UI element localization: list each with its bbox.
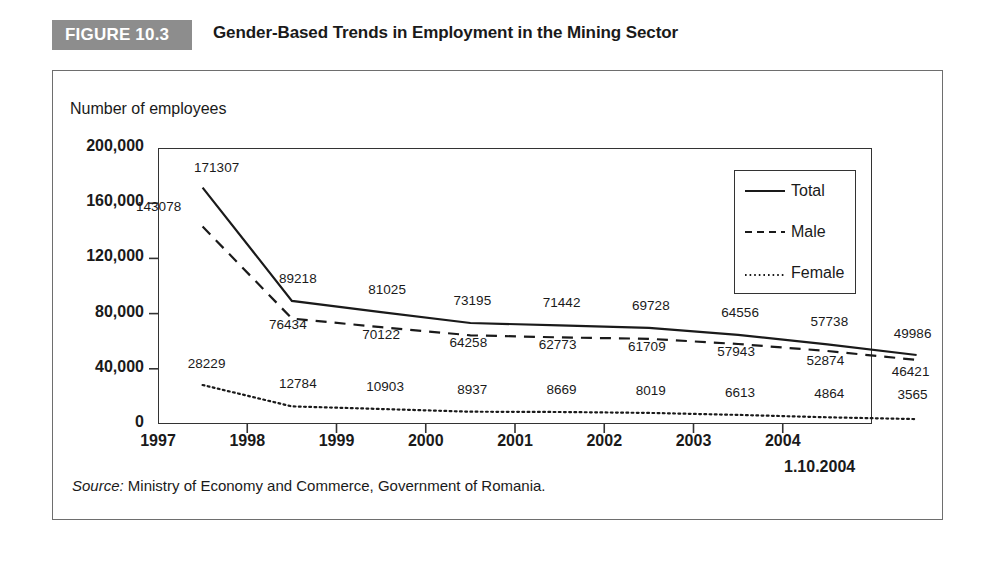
data-point-label: 28229 bbox=[177, 356, 237, 371]
x-axis-end-date-label: 1.10.2004 bbox=[784, 458, 855, 476]
legend-item-total[interactable]: Total bbox=[743, 181, 825, 201]
legend-line-dashed-icon bbox=[743, 226, 787, 238]
legend-line-dotted-icon bbox=[743, 267, 787, 279]
legend-item-male[interactable]: Male bbox=[743, 222, 826, 242]
x-axis-tick-label: 2001 bbox=[475, 432, 555, 450]
data-point-label: 8669 bbox=[532, 382, 592, 397]
data-point-label: 10903 bbox=[355, 379, 415, 394]
legend-label-male: Male bbox=[791, 223, 826, 241]
data-point-label: 8019 bbox=[621, 383, 681, 398]
data-point-label: 49986 bbox=[883, 326, 943, 341]
x-axis-tick-label: 1997 bbox=[118, 432, 198, 450]
x-axis-tick-label: 2002 bbox=[564, 432, 644, 450]
data-point-label: 8937 bbox=[442, 382, 502, 397]
figure-title: Gender-Based Trends in Employment in the… bbox=[213, 23, 678, 43]
data-point-label: 52874 bbox=[795, 353, 855, 368]
data-point-label: 69728 bbox=[621, 298, 681, 313]
legend-label-total: Total bbox=[791, 182, 825, 200]
y-axis-tick-label: 0 bbox=[34, 413, 144, 431]
y-axis-title: Number of employees bbox=[70, 100, 227, 118]
data-point-label: 171307 bbox=[187, 160, 247, 175]
data-point-label: 89218 bbox=[268, 271, 328, 286]
y-axis-tick-label: 40,000 bbox=[34, 358, 144, 376]
y-axis-tick-label: 200,000 bbox=[34, 137, 144, 155]
legend-label-female: Female bbox=[791, 264, 844, 282]
data-point-label: 64556 bbox=[710, 305, 770, 320]
data-point-label: 46421 bbox=[881, 364, 941, 379]
data-point-label: 6613 bbox=[710, 385, 770, 400]
data-point-label: 71442 bbox=[532, 295, 592, 310]
data-point-label: 73195 bbox=[442, 293, 502, 308]
data-point-label: 61709 bbox=[617, 339, 677, 354]
data-point-label: 64258 bbox=[438, 335, 498, 350]
data-point-label: 3565 bbox=[883, 387, 943, 402]
x-axis-tick-label: 2004 bbox=[743, 432, 823, 450]
y-axis-tick-label: 160,000 bbox=[34, 192, 144, 210]
data-point-label: 57738 bbox=[799, 314, 859, 329]
figure-number-badge: FIGURE 10.3 bbox=[52, 20, 192, 50]
x-axis-tick-label: 2003 bbox=[654, 432, 734, 450]
figure-container: FIGURE 10.3 Gender-Based Trends in Emplo… bbox=[0, 0, 996, 565]
source-text: Ministry of Economy and Commerce, Govern… bbox=[124, 477, 546, 494]
y-axis-tick-label: 120,000 bbox=[34, 247, 144, 265]
data-point-label: 76434 bbox=[258, 317, 318, 332]
data-point-label: 62773 bbox=[528, 337, 588, 352]
x-axis-tick-label: 1998 bbox=[207, 432, 287, 450]
data-point-label: 143078 bbox=[129, 199, 189, 214]
data-point-label: 4864 bbox=[799, 386, 859, 401]
data-point-label: 57943 bbox=[706, 344, 766, 359]
x-axis-tick-label: 1999 bbox=[297, 432, 377, 450]
legend-line-solid-icon bbox=[743, 185, 787, 197]
data-point-label: 70122 bbox=[351, 327, 411, 342]
x-axis-tick-label: 2000 bbox=[386, 432, 466, 450]
y-axis-tick-label: 80,000 bbox=[34, 303, 144, 321]
legend-item-female[interactable]: Female bbox=[743, 263, 844, 283]
chart-legend: Total Male Female bbox=[734, 170, 856, 294]
data-point-label: 81025 bbox=[357, 282, 417, 297]
source-note: Source: Ministry of Economy and Commerce… bbox=[72, 477, 546, 494]
data-point-label: 12784 bbox=[268, 376, 328, 391]
source-label: Source: bbox=[72, 477, 124, 494]
